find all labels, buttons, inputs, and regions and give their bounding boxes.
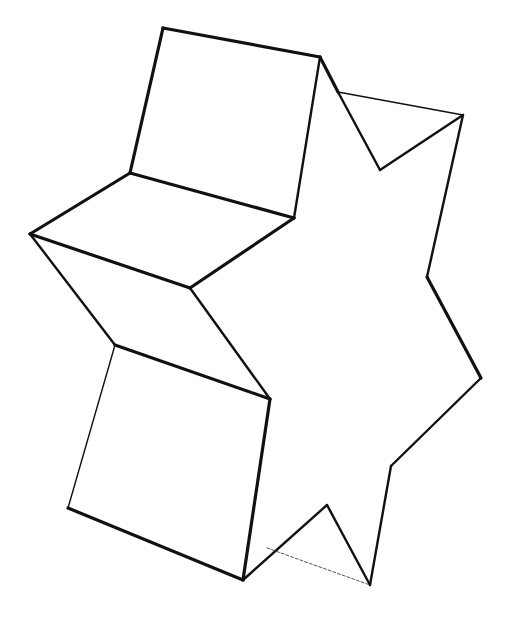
top-notch-right [380, 115, 463, 170]
right-upper-side [427, 115, 463, 277]
left-point-lower [30, 234, 115, 345]
top-right-slant [320, 57, 338, 92]
mid-diagonal [190, 288, 270, 399]
upper-left-face-right [190, 218, 294, 288]
right-point-upper [427, 277, 481, 378]
top-notch-back [338, 92, 463, 115]
upper-left-face-bottom [30, 234, 190, 288]
lower-face-right [243, 399, 270, 580]
upper-left-face-top [30, 173, 130, 234]
lower-face-top [115, 345, 270, 399]
bottom-hidden-edge [267, 548, 370, 585]
lower-face-bottom [68, 508, 243, 580]
bottom-notch-right [327, 505, 370, 585]
star-prism-drawing [0, 0, 507, 622]
right-point-lower [391, 378, 481, 466]
top-face-bottom-edge [130, 173, 294, 218]
top-face-right-edge [294, 57, 320, 218]
top-face-left-edge [130, 28, 163, 173]
sketch-canvas [0, 0, 507, 622]
right-lower-side [370, 466, 391, 585]
top-face-top-edge [163, 28, 320, 57]
top-notch-left [338, 92, 380, 170]
bottom-notch-left [243, 505, 327, 580]
lower-face-left [68, 345, 115, 508]
